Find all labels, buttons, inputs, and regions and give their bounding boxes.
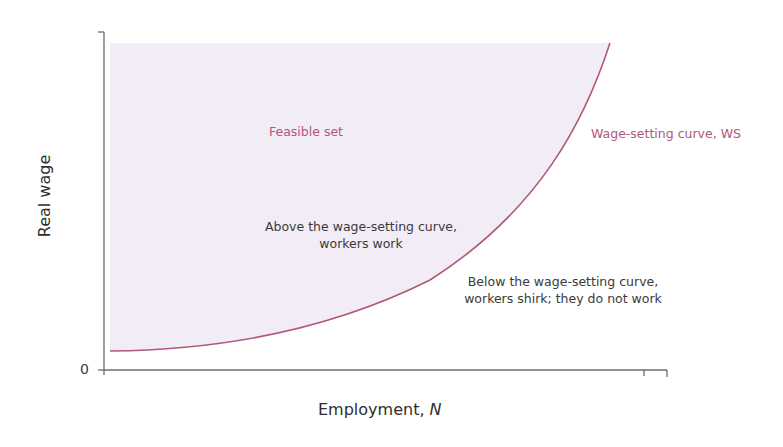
above-curve-line-1: Above the wage-setting curve, <box>258 218 464 235</box>
y-axis-label: Real wage <box>35 155 54 237</box>
x-axis-label: Employment, N <box>318 400 442 419</box>
below-curve-annotation: Below the wage-setting curve, workers sh… <box>455 273 671 307</box>
below-curve-line-2: workers shirk; they do not work <box>455 290 671 307</box>
ws-curve-label: Wage-setting curve, WS <box>591 126 741 141</box>
x-axis-label-text: Employment, <box>318 400 430 419</box>
y-zero-tick-label: 0 <box>80 361 89 377</box>
below-curve-line-1: Below the wage-setting curve, <box>455 273 671 290</box>
above-curve-annotation: Above the wage-setting curve, workers wo… <box>258 218 464 252</box>
x-axis-variable: N <box>430 400 442 419</box>
feasible-set-label: Feasible set <box>269 124 343 139</box>
above-curve-line-2: workers work <box>258 235 464 252</box>
